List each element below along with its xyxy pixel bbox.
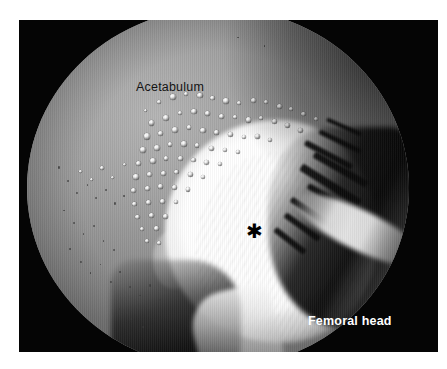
label-acetabulum: Acetabulum [136,80,204,94]
scope-vignette [27,20,409,352]
label-femoral-head: Femoral head [308,314,392,328]
endoscope-circular-field [27,20,409,352]
figure-root: Acetabulum Femoral head ✱ [0,0,447,369]
asterisk-marker: ✱ [246,221,263,241]
arthroscopy-photo-frame: Acetabulum Femoral head ✱ [19,20,438,352]
